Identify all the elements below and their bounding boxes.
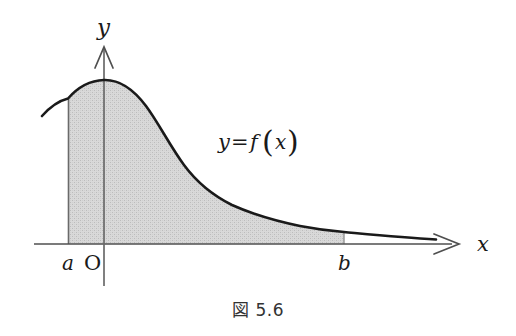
- x-axis-label: x: [477, 232, 489, 256]
- integral-area-diagram: y x a O b y = f ( x ): [0, 0, 516, 336]
- equation-paren-close: ): [287, 124, 299, 159]
- shaded-area-under-curve: [68, 80, 344, 244]
- equation-paren-open: (: [262, 124, 274, 159]
- curve-equation-label: y = f ( x ): [217, 124, 299, 159]
- equation-variable: x: [275, 130, 286, 154]
- origin-label: O: [84, 251, 101, 275]
- equation-y: y: [217, 130, 231, 154]
- figure-caption: 図 5.6: [0, 296, 516, 321]
- upper-bound-label: b: [338, 251, 351, 275]
- figure-container: y x a O b y = f ( x ) 図 5.6: [0, 0, 516, 336]
- equation-equals: =: [231, 130, 249, 154]
- lower-bound-label: a: [62, 251, 74, 275]
- equation-f: f: [248, 130, 261, 154]
- y-axis-label: y: [96, 14, 111, 40]
